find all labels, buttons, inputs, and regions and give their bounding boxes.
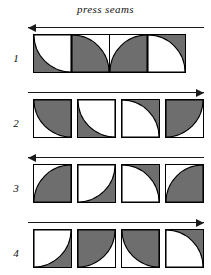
- row-label-2: 2: [8, 117, 24, 129]
- quarter-circle-shape: [122, 230, 159, 267]
- press-direction-arrow-row-1: [28, 23, 204, 32]
- quarter-circle-shape: [122, 165, 159, 202]
- row-label-1: 1: [8, 52, 24, 64]
- quilt-row-4: [33, 229, 204, 268]
- quarter-circle-shape: [122, 100, 159, 137]
- quilt-block-r4c2: [77, 229, 116, 268]
- quarter-circle-shape: [166, 230, 203, 267]
- quilt-block-r1c2: [71, 34, 110, 73]
- arrow-head-left-icon: [28, 24, 36, 32]
- quilt-block-r2c3: [121, 99, 160, 138]
- quarter-circle-shape: [34, 100, 71, 137]
- arrow-shaft: [28, 157, 204, 158]
- quilt-block-r2c1: [33, 99, 72, 138]
- arrow-shaft: [28, 92, 204, 93]
- arrow-head-right-icon: [196, 219, 204, 227]
- quarter-circle-shape: [34, 35, 71, 72]
- quilt-block-r4c4: [165, 229, 204, 268]
- arrow-head-right-icon: [196, 89, 204, 97]
- quilt-block-r4c1: [33, 229, 72, 268]
- quilt-block-r1c1: [33, 34, 72, 73]
- quilt-block-r3c4: [165, 164, 204, 203]
- quarter-circle-shape: [148, 35, 185, 72]
- arrow-shaft: [28, 222, 204, 223]
- row-label-3: 3: [8, 182, 24, 194]
- quarter-circle-shape: [78, 230, 115, 267]
- quilt-block-r3c3: [121, 164, 160, 203]
- press-direction-arrow-row-4: [28, 218, 204, 227]
- row-label-4: 4: [8, 247, 24, 259]
- quilt-block-r4c3: [121, 229, 160, 268]
- quarter-circle-shape: [34, 230, 71, 267]
- quilt-block-r1c4: [147, 34, 186, 73]
- diagram-caption: press seams: [0, 3, 211, 15]
- quilt-row-1: [33, 34, 186, 73]
- quilt-row-2: [33, 99, 204, 138]
- quarter-circle-shape: [78, 100, 115, 137]
- quarter-circle-shape: [72, 35, 109, 72]
- quarter-circle-shape: [78, 165, 115, 202]
- quarter-circle-shape: [34, 165, 71, 202]
- press-direction-arrow-row-3: [28, 153, 204, 162]
- quarter-circle-shape: [110, 35, 147, 72]
- quarter-circle-shape: [166, 165, 203, 202]
- arrow-head-left-icon: [28, 154, 36, 162]
- quilt-block-r3c2: [77, 164, 116, 203]
- quilt-block-r2c4: [165, 99, 204, 138]
- quilt-block-r1c3: [109, 34, 148, 73]
- arrow-shaft: [28, 27, 204, 28]
- quilt-pressing-diagram: press seams 1 2 3 4: [0, 0, 211, 275]
- quarter-circle-shape: [166, 100, 203, 137]
- quilt-block-r3c1: [33, 164, 72, 203]
- press-direction-arrow-row-2: [28, 88, 204, 97]
- quilt-row-3: [33, 164, 204, 203]
- quilt-block-r2c2: [77, 99, 116, 138]
